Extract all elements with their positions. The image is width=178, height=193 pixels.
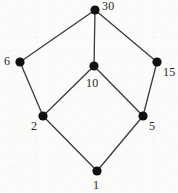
node-label-6: 6 (4, 55, 10, 67)
edge-n15-n30 (95, 10, 157, 62)
node-label-10: 10 (86, 77, 98, 89)
node-2[interactable] (38, 111, 47, 120)
edge-n10-n30 (94, 10, 95, 66)
node-10[interactable] (89, 61, 98, 70)
node-30[interactable] (90, 5, 99, 14)
node-15[interactable] (152, 57, 161, 66)
edge-group (20, 10, 157, 171)
hasse-diagram-figure: 3061015251 (0, 0, 178, 193)
node-group (15, 5, 161, 175)
edge-n6-n30 (20, 10, 95, 62)
node-label-5: 5 (149, 120, 155, 132)
node-label-15: 15 (163, 66, 175, 78)
edge-n2-n6 (20, 62, 43, 116)
edge-n1-n5 (97, 116, 143, 171)
node-1[interactable] (92, 166, 101, 175)
node-label-2: 2 (31, 120, 37, 132)
edge-n5-n10 (94, 66, 143, 116)
edge-n2-n10 (43, 66, 94, 116)
node-6[interactable] (15, 57, 24, 66)
node-label-1: 1 (93, 179, 99, 191)
lattice-graph (0, 0, 178, 193)
edge-n5-n15 (143, 62, 157, 116)
node-5[interactable] (138, 111, 147, 120)
edge-n1-n2 (43, 116, 97, 171)
node-label-30: 30 (102, 0, 114, 12)
